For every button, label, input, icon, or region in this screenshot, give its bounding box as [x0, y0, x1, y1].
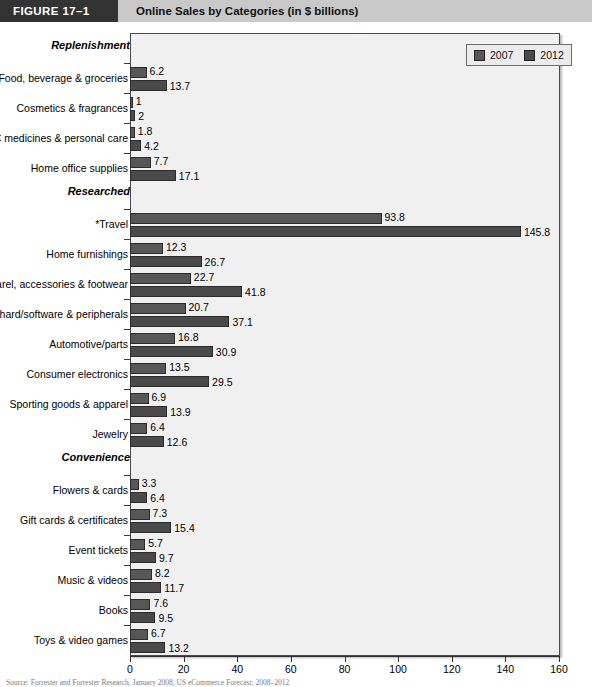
x-axis-tick — [237, 656, 238, 662]
category-label: Automotive/parts — [0, 339, 128, 351]
bar-value-2012: 145.8 — [524, 227, 550, 238]
y-axis-tick — [124, 595, 130, 596]
category-label: Home furnishings — [0, 249, 128, 261]
bar-2007 — [130, 97, 133, 108]
x-axis-tick-label: 100 — [389, 663, 407, 675]
bar-value-2012: 41.8 — [245, 287, 265, 298]
x-axis-tick-label: 160 — [550, 663, 568, 675]
bar-2012 — [130, 110, 135, 121]
bar-2007 — [130, 629, 148, 640]
bar-value-2007: 1.8 — [138, 126, 153, 137]
bar-value-2012: 13.7 — [170, 81, 190, 92]
bar-2012 — [130, 256, 202, 267]
y-axis-tick — [124, 269, 130, 270]
category-label: Music & videos — [0, 575, 128, 587]
category-label: Event tickets — [0, 545, 128, 557]
bar-2007 — [130, 509, 150, 520]
bar-2012 — [130, 612, 155, 623]
category-label: Food, beverage & groceries — [0, 73, 128, 85]
bar-2012 — [130, 140, 141, 151]
bar-value-2012: 13.2 — [168, 643, 188, 654]
bar-value-2012: 12.6 — [167, 437, 187, 448]
x-axis-tick — [559, 656, 560, 662]
category-label: Toys & video games — [0, 635, 128, 647]
bar-2012 — [130, 376, 209, 387]
group-heading-convenience: Convenience — [62, 451, 130, 463]
y-axis-tick — [124, 93, 130, 94]
bar-2007 — [130, 569, 152, 580]
bar-value-2012: 15.4 — [174, 523, 194, 534]
x-axis-tick — [291, 656, 292, 662]
bar-value-2007: 8.2 — [155, 568, 170, 579]
bar-value-2012: 30.9 — [216, 347, 236, 358]
bar-2007 — [130, 363, 166, 374]
bar-value-2012: 2 — [138, 111, 144, 122]
bar-2007 — [130, 599, 150, 610]
bar-value-2007: 13.5 — [169, 362, 189, 373]
bar-value-2007: 7.6 — [153, 598, 168, 609]
category-label: Consumer electronics — [0, 369, 128, 381]
bar-2012 — [130, 436, 164, 447]
category-label: Jewelry — [0, 429, 128, 441]
bar-value-2012: 6.4 — [150, 493, 165, 504]
bar-2007 — [130, 67, 147, 78]
bar-2007 — [130, 157, 151, 168]
y-axis-tick — [124, 625, 130, 626]
y-axis-tick — [124, 389, 130, 390]
bar-value-2007: 20.7 — [189, 302, 209, 313]
category-label: OTC medicines & personal care — [0, 133, 128, 145]
figure-number-tag: FIGURE 17–1 — [0, 0, 118, 22]
x-axis-tick — [452, 656, 453, 662]
bar-2012 — [130, 522, 171, 533]
category-label: Apparel, accessories & footwear — [0, 279, 128, 291]
x-axis-tick — [398, 656, 399, 662]
bar-value-2007: 12.3 — [166, 242, 186, 253]
category-label: Cosmetics & fragrances — [0, 103, 128, 115]
x-axis-tick-label: 120 — [443, 663, 461, 675]
x-axis-tick-label: 0 — [127, 663, 133, 675]
bar-2007 — [130, 393, 149, 404]
x-axis-tick — [345, 656, 346, 662]
bar-value-2012: 11.7 — [164, 583, 184, 594]
y-axis-tick — [124, 239, 130, 240]
bar-2012 — [130, 642, 165, 653]
category-label: Sporting goods & apparel — [0, 399, 128, 411]
source-note: Source: Forrester and Forrester Research… — [6, 678, 592, 687]
bar-2012 — [130, 582, 161, 593]
y-axis-tick — [124, 329, 130, 330]
y-axis-tick — [124, 123, 130, 124]
y-axis-tick — [124, 475, 130, 476]
bar-value-2007: 22.7 — [194, 272, 214, 283]
bar-value-2007: 93.8 — [385, 212, 405, 223]
y-axis-tick — [124, 359, 130, 360]
bar-2012 — [130, 552, 156, 563]
legend-entry-2012: 2012 — [524, 49, 563, 61]
bar-2012 — [130, 286, 242, 297]
x-axis-tick — [130, 656, 131, 662]
bar-value-2007: 6.9 — [152, 392, 167, 403]
bar-2012 — [130, 80, 167, 91]
legend-entry-2007: 2007 — [474, 49, 513, 61]
bar-value-2007: 6.4 — [150, 422, 165, 433]
y-axis-tick — [124, 419, 130, 420]
bar-value-2007: 1 — [136, 96, 142, 107]
bar-2007 — [130, 479, 139, 490]
bar-value-2012: 29.5 — [212, 377, 232, 388]
x-axis-tick-label: 20 — [178, 663, 190, 675]
bar-2007 — [130, 127, 135, 138]
chart-legend: 20072012 — [466, 44, 572, 66]
x-axis-tick-label: 80 — [339, 663, 351, 675]
category-label: Flowers & cards — [0, 485, 128, 497]
bar-value-2012: 4.2 — [144, 141, 159, 152]
bar-2007 — [130, 423, 147, 434]
x-axis-tick — [184, 656, 185, 662]
x-axis-tick-label: 60 — [285, 663, 297, 675]
category-label: Computer hard/software & peripherals — [0, 309, 128, 321]
chart-area: 20072012 ReplenishmentFood, beverage & g… — [0, 22, 592, 687]
legend-label: 2012 — [540, 49, 563, 61]
plot-area — [130, 33, 560, 656]
legend-swatch-icon — [474, 50, 485, 61]
bar-value-2012: 9.5 — [158, 613, 173, 624]
bar-2012 — [130, 170, 176, 181]
category-label: Home office supplies — [0, 163, 128, 175]
